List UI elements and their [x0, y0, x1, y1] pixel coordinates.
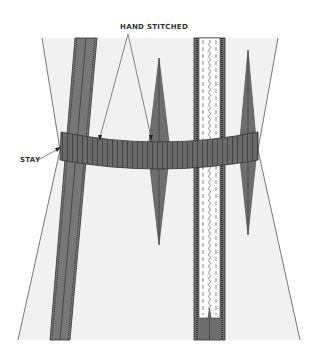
stay-leader [38, 147, 61, 160]
zipper [194, 38, 225, 340]
hand-stitched-label: HAND STITCHED [120, 23, 188, 31]
stay-label: STAY [20, 156, 40, 164]
